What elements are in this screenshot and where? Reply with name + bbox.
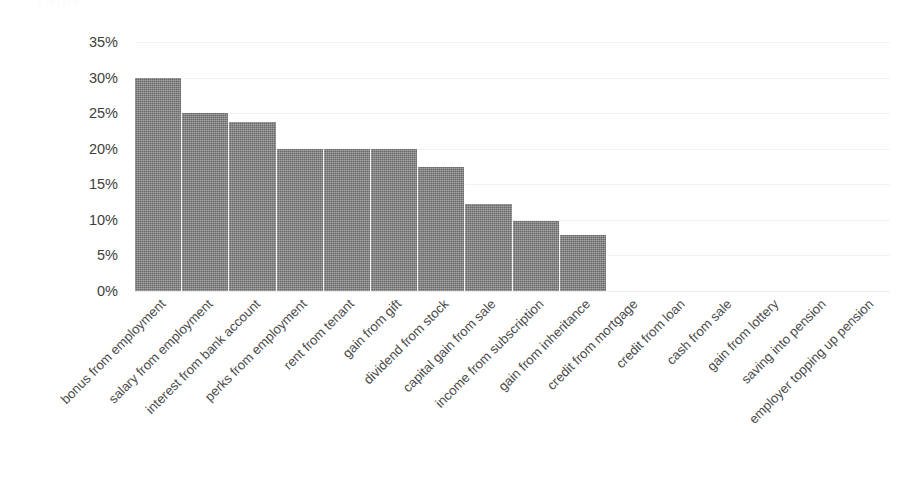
bar[interactable] [560,235,607,291]
x-tick-label: credit from mortgage [544,297,639,392]
bar-slot [418,42,465,291]
plot-area [135,42,890,291]
x-tick-label: gain from inheritance [496,297,592,393]
bar-slot [371,42,418,291]
bar-slot [654,42,701,291]
x-tick-label: dividend from stock [361,297,451,387]
y-tick-label: 20% [0,141,118,157]
bar-slot [560,42,607,291]
y-axis: 35%30%25%20%15%10%5%0% [0,0,128,499]
x-tick-label: capital gain from sale [401,297,498,394]
x-axis-labels: bonus from employmentsalary from employm… [135,291,890,499]
bar-slot [748,42,795,291]
bar[interactable] [513,221,560,291]
x-tick-label: saving into pension [739,297,828,386]
bar-series [135,42,890,291]
y-tick-label: 30% [0,70,118,86]
bar-slot [277,42,324,291]
y-tick-label: 10% [0,212,118,228]
bar[interactable] [324,149,371,291]
bar-slot [513,42,560,291]
bar-slot [701,42,748,291]
bar-slot [182,42,229,291]
bar-slot [229,42,276,291]
y-tick-label: 15% [0,176,118,192]
bar-slot [607,42,654,291]
bar[interactable] [135,78,182,291]
y-tick-label: 5% [0,247,118,263]
bar[interactable] [229,122,276,291]
bar-chart: 35%30%25%20%15%10%5%0% bonus from employ… [0,0,920,499]
bar[interactable] [277,149,324,291]
bar[interactable] [371,149,418,291]
bar-slot [465,42,512,291]
bar-slot [324,42,371,291]
y-tick-label: 25% [0,105,118,121]
bar[interactable] [465,204,512,292]
bar[interactable] [182,113,229,291]
y-tick-label: 0% [0,283,118,299]
y-tick-label: 35% [0,34,118,50]
bar-slot [796,42,843,291]
bar-slot [843,42,890,291]
bar[interactable] [418,167,465,292]
bar-slot [135,42,182,291]
